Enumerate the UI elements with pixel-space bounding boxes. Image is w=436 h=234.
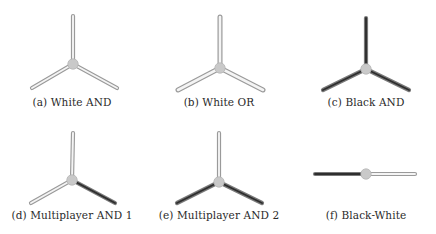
junction-node-icon <box>361 169 371 179</box>
white-wire-a-1 <box>32 64 73 88</box>
caption-multiplayer-and-1: (d) Multiplayer AND 1 <box>12 209 133 221</box>
junction-node-icon <box>68 59 78 69</box>
junction-node-icon <box>214 177 224 187</box>
caption-black-and: (c) Black AND <box>328 96 405 108</box>
caption-multiplayer-and-2: (e) Multiplayer AND 2 <box>159 209 279 221</box>
white-wire-b-1 <box>178 68 220 90</box>
black-wire-e-2 <box>219 182 262 203</box>
wire-diagram-canvas <box>0 0 436 234</box>
panel-b <box>178 17 263 90</box>
panel-c <box>323 18 409 90</box>
junction-node-icon <box>361 64 371 74</box>
black-wire-e-1 <box>177 182 219 203</box>
wire-gate-figure: (a) White AND (b) White OR (c) Black AND… <box>0 0 436 234</box>
black-wire-c-2 <box>366 69 409 90</box>
panel-d <box>31 133 115 203</box>
white-wire-d-1 <box>31 180 72 203</box>
junction-node-icon <box>67 175 77 185</box>
caption-black-white: (f) Black-White <box>326 209 407 221</box>
white-wire-d-0 <box>72 133 73 180</box>
white-wire-a-2 <box>73 64 117 88</box>
junction-node-icon <box>215 63 225 73</box>
caption-white-and: (a) White AND <box>33 96 112 108</box>
white-wire-b-2 <box>220 68 263 90</box>
panel-f <box>315 169 415 179</box>
panel-e <box>177 133 262 203</box>
black-wire-c-1 <box>323 69 366 90</box>
caption-white-or: (b) White OR <box>184 96 255 108</box>
black-wire-d-2 <box>72 180 115 203</box>
panel-a <box>32 16 117 88</box>
